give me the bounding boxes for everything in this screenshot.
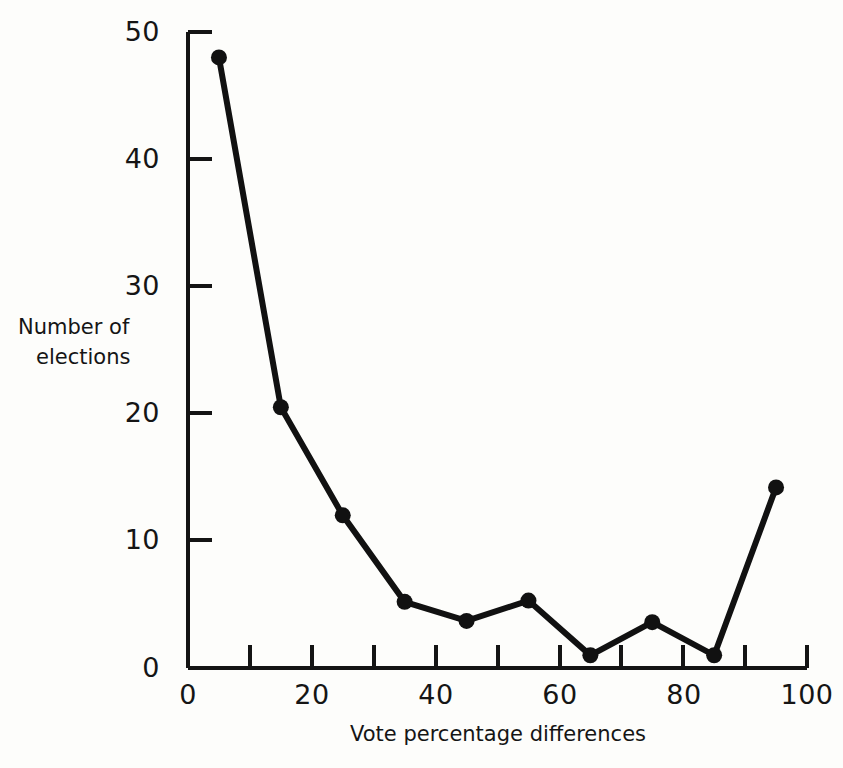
data-point-marker <box>768 479 784 495</box>
x-tick-label-80: 80 <box>644 679 724 710</box>
data-point-marker <box>582 647 598 663</box>
x-tick-label-60: 60 <box>520 679 600 710</box>
axis-lines <box>188 32 807 668</box>
data-point-marker <box>644 614 660 630</box>
y-axis-title-line-1: Number of <box>18 315 129 339</box>
data-point-marker <box>335 507 351 523</box>
x-tick-label-0: 0 <box>148 679 228 710</box>
y-tick-label-20: 20 <box>104 397 160 428</box>
y-axis-title-line-2: elections <box>18 342 176 372</box>
y-tick-label-50: 50 <box>104 16 160 47</box>
y-tick-label-30: 30 <box>104 270 160 301</box>
data-point-markers <box>211 49 784 663</box>
data-point-marker <box>706 647 722 663</box>
x-tick-label-100: 100 <box>767 679 843 710</box>
data-point-marker <box>211 49 227 65</box>
data-point-marker <box>520 593 536 609</box>
x-tick-label-40: 40 <box>396 679 476 710</box>
data-point-marker <box>459 613 475 629</box>
x-tick-label-20: 20 <box>272 679 352 710</box>
data-series-line <box>219 57 776 655</box>
x-axis-ticks <box>250 645 807 668</box>
x-axis-title: Vote percentage differences <box>188 722 808 746</box>
y-tick-label-40: 40 <box>104 143 160 174</box>
y-tick-label-10: 10 <box>104 524 160 555</box>
y-axis-title: Number of elections <box>18 312 176 372</box>
y-axis-ticks <box>188 32 212 540</box>
data-point-marker <box>397 594 413 610</box>
chart-figure: 50 40 30 20 10 0 0 20 40 60 80 100 Numbe… <box>0 0 843 768</box>
data-point-marker <box>273 399 289 415</box>
